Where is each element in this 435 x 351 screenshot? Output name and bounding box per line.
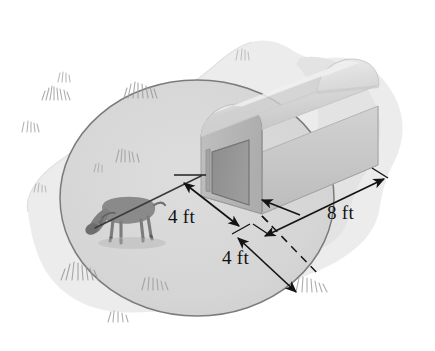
label-tether-length: 4 ft [222,248,249,267]
label-barn-length: 8 ft [327,203,354,222]
geometry-figure: 4 ft 4 ft 8 ft [0,0,435,351]
barn-door-frame-left [206,149,210,192]
figure-canvas [0,0,435,351]
label-barn-width: 4 ft [168,207,195,226]
